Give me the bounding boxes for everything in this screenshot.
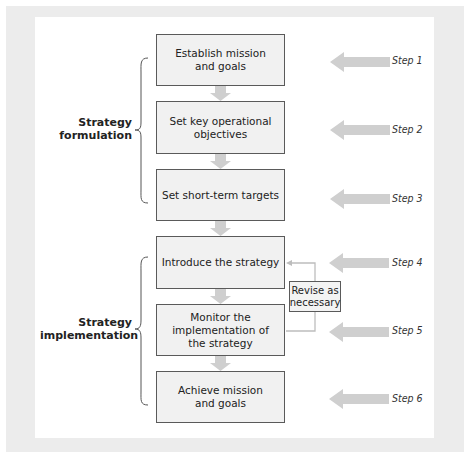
step-label-1: Step 1 xyxy=(392,54,423,66)
left-arrow-icon xyxy=(330,52,390,72)
group-label-implementation: Strategy implementation xyxy=(40,316,132,342)
left-arrow-icon xyxy=(329,253,389,273)
down-arrow-icon xyxy=(210,153,231,169)
step-box-set-objectives: Set key operational objectives xyxy=(156,101,285,154)
group-label-formulation: Strategy formulation xyxy=(56,116,132,142)
step-arrows xyxy=(329,52,390,409)
down-arrow-icon xyxy=(210,221,231,236)
step-box-introduce-strategy: Introduce the strategy xyxy=(156,236,285,289)
step-label-2: Step 2 xyxy=(392,123,423,135)
step-label-3: Step 3 xyxy=(392,192,423,204)
step-box-achieve-mission: Achieve mission and goals xyxy=(156,371,285,423)
braces xyxy=(135,58,148,405)
left-arrow-icon xyxy=(329,389,389,409)
revise-box: Revise as necessary xyxy=(289,281,341,312)
step-label-4: Step 4 xyxy=(392,256,423,268)
step-box-monitor: Monitor the implementation of the strate… xyxy=(156,304,285,356)
feedback-arrowhead-icon xyxy=(286,260,292,266)
left-arrow-icon xyxy=(329,322,389,342)
step-box-set-targets: Set short-term targets xyxy=(156,169,285,221)
brace-formulation-icon xyxy=(135,58,148,203)
step-label-5: Step 5 xyxy=(392,324,423,336)
step-box-establish-mission: Establish mission and goals xyxy=(156,34,285,86)
step-label-6: Step 6 xyxy=(392,392,423,404)
left-arrow-icon xyxy=(330,189,390,209)
left-arrow-icon xyxy=(330,120,390,140)
down-arrow-icon xyxy=(210,288,231,304)
down-arrow-icon xyxy=(210,356,231,371)
down-arrow-icon xyxy=(210,86,231,101)
